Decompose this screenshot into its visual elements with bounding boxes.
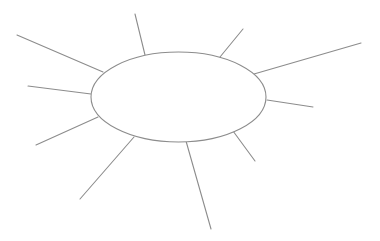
diagram-canvas [0,0,380,241]
spoke-bottom [186,141,211,229]
spoke-right [267,100,313,107]
spoke-top-right [220,29,243,57]
spoke-lower-right [233,131,255,161]
spoke-top-left [135,14,145,55]
spoke-left [28,86,91,94]
spoke-upper-right-long [254,43,361,74]
spoke-bottom-left [80,137,134,199]
center-ellipse [91,52,266,142]
spoke-lower-left [36,117,98,145]
spoke-upper-left-long [17,35,103,72]
spider-diagram [0,0,380,241]
